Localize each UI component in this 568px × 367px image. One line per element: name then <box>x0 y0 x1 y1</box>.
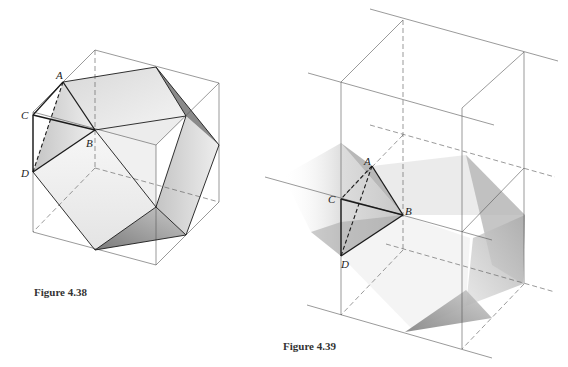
point-label-A: A <box>363 155 371 167</box>
point-label-C: C <box>21 109 29 121</box>
figure-caption-4-39: Figure 4.39 <box>283 340 336 352</box>
figure-caption-4-38: Figure 4.38 <box>34 286 87 298</box>
point-label-C: C <box>328 193 336 205</box>
figure-4-38-diagram: A C B D <box>20 50 219 265</box>
box-edge <box>341 20 403 82</box>
point-label-A: A <box>55 69 63 81</box>
figures-canvas: A C B D <box>0 0 568 367</box>
point-label-B: B <box>86 137 93 149</box>
point-label-D: D <box>20 167 29 179</box>
point-label-D: D <box>340 258 349 270</box>
guide-line <box>370 9 558 61</box>
guide-line <box>308 73 494 125</box>
figure-4-39-diagram: A C B D <box>265 9 558 358</box>
point-label-B: B <box>405 205 412 217</box>
box-edge <box>462 52 524 108</box>
